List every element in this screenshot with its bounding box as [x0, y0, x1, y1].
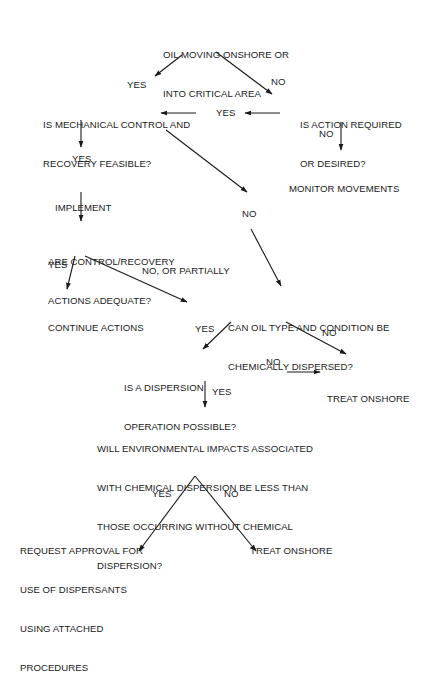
edge-label-mechanical-yes: YES [72, 152, 91, 165]
node-monitor-line-1: MONITOR MOVEMENTS [289, 182, 399, 195]
node-implement-line-1: IMPLEMENT [55, 201, 111, 214]
edge-label-impacts-no: NO [224, 487, 239, 500]
node-treat-onshore-2-line-1: TREAT ONSHORE [250, 544, 332, 557]
node-start-line-1: OIL MOVING ONSHORE OR [163, 48, 289, 61]
edge-label-start-no: NO [271, 75, 286, 88]
arrow-no-to-chem-dispersed [251, 229, 281, 286]
edge-label-adequate-no-partially: NO, OR PARTIALLY [142, 264, 230, 277]
node-request-approval-line-1: REQUEST APPROVAL FOR [20, 544, 143, 557]
node-action-required-line-1: IS ACTION REQUIRED [300, 118, 402, 131]
edge-label-start-yes: YES [127, 78, 146, 91]
node-monitor: MONITOR MOVEMENTS [289, 156, 399, 221]
edge-label-chem-yes: YES [195, 322, 214, 335]
node-mechanical-line-1: IS MECHANICAL CONTROL AND [43, 118, 190, 131]
node-impacts-line-1: WILL ENVIRONMENTAL IMPACTS ASSOCIATED [97, 442, 313, 455]
edge-label-adequate-yes: YES [48, 258, 67, 271]
edge-label-mechanical-no: NO [242, 207, 257, 220]
node-request-approval-line-4: PROCEDURES [20, 661, 143, 674]
node-request-approval: REQUEST APPROVAL FOR USE OF DISPERSANTS … [20, 518, 143, 675]
node-continue: CONTINUE ACTIONS [48, 295, 144, 360]
node-impacts-line-2: WITH CHEMICAL DISPERSION BE LESS THAN [97, 481, 313, 494]
node-chem-dispersed-line-1: CAN OIL TYPE AND CONDITION BE [228, 321, 389, 334]
node-treat-onshore-1: TREAT ONSHORE [327, 366, 409, 431]
edge-label-impacts-yes: YES [152, 487, 171, 500]
edge-label-chem-no: NO [322, 326, 337, 339]
edge-label-dispersion-no: NO [266, 355, 281, 368]
node-request-approval-line-2: USE OF DISPERSANTS [20, 583, 143, 596]
node-treat-onshore-1-line-1: TREAT ONSHORE [327, 392, 409, 405]
node-treat-onshore-2: TREAT ONSHORE [250, 518, 332, 583]
edge-label-dispersion-yes: YES [212, 385, 231, 398]
node-request-approval-line-3: USING ATTACHED [20, 622, 143, 635]
edge-label-action-yes: YES [216, 106, 235, 119]
node-mechanical-line-2: RECOVERY FEASIBLE? [43, 157, 190, 170]
node-continue-line-1: CONTINUE ACTIONS [48, 321, 144, 334]
edge-label-action-no: NO [319, 127, 334, 140]
